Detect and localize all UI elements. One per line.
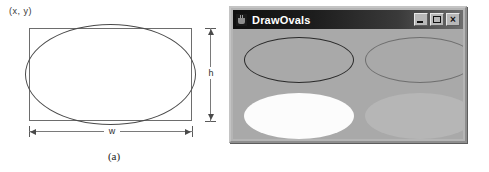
maximize-button[interactable] bbox=[430, 13, 444, 26]
oval-top-left bbox=[244, 37, 354, 83]
arrow-down-icon bbox=[208, 114, 214, 120]
oval-bottom-right bbox=[365, 93, 463, 139]
arrow-left-icon bbox=[30, 129, 36, 135]
minimize-button[interactable] bbox=[414, 13, 428, 26]
oval-bottom-left bbox=[244, 93, 354, 139]
java-cup-body bbox=[238, 18, 245, 24]
close-button[interactable]: × bbox=[446, 13, 460, 26]
minimize-icon bbox=[417, 21, 423, 23]
panel-a-diagram: (x, y) h w (a) bbox=[0, 0, 225, 172]
width-dimension: w bbox=[29, 126, 193, 138]
inscribed-ellipse bbox=[25, 24, 196, 125]
window-title: DrawOvals bbox=[252, 14, 311, 26]
arrow-up-icon bbox=[208, 29, 214, 35]
origin-coordinate-label: (x, y) bbox=[9, 6, 32, 16]
arrow-right-icon bbox=[185, 129, 191, 135]
caption-a: (a) bbox=[89, 150, 139, 162]
maximize-icon bbox=[433, 16, 441, 23]
figure-root: (x, y) h w (a) bbox=[0, 0, 489, 172]
drawovals-window: DrawOvals × bbox=[229, 6, 467, 143]
height-dimension: h bbox=[205, 28, 217, 122]
window-controls: × bbox=[414, 13, 460, 26]
width-dimension-label: w bbox=[104, 125, 120, 138]
window-titlebar[interactable]: DrawOvals × bbox=[233, 10, 463, 29]
panel-b-screenshot: DrawOvals × bbox=[225, 0, 489, 172]
height-dimension-label: h bbox=[204, 67, 218, 79]
oval-top-right bbox=[365, 37, 463, 83]
drawing-canvas bbox=[233, 29, 463, 139]
close-icon: × bbox=[447, 14, 459, 25]
java-cup-icon bbox=[236, 14, 247, 26]
